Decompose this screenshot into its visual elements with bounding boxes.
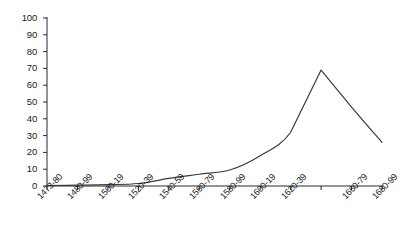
y-axis-tick-label: 100 — [11, 13, 37, 23]
y-axis-tick-marks — [43, 18, 47, 186]
line-chart: 0102030405060708090100 1473-801480-99150… — [0, 0, 404, 242]
x-axis-tick-marks — [47, 186, 382, 190]
y-axis-tick-label: 90 — [11, 30, 37, 40]
y-axis-tick-label: 70 — [11, 63, 37, 73]
y-axis-tick-label: 60 — [11, 80, 37, 90]
y-axis-tick-label: 80 — [11, 47, 37, 57]
chart-axes — [47, 17, 383, 186]
y-axis-tick-label: 40 — [11, 114, 37, 124]
data-series-line — [47, 70, 382, 185]
y-axis-tick-label: 20 — [11, 147, 37, 157]
chart-canvas — [0, 0, 404, 242]
y-axis-tick-label: 50 — [11, 97, 37, 107]
y-axis-tick-label: 30 — [11, 131, 37, 141]
y-axis-tick-label: 10 — [11, 164, 37, 174]
y-axis-tick-label: 0 — [11, 181, 37, 191]
